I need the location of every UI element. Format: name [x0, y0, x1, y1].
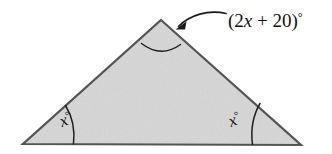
apex-angle-label-text: (2x + 20)°	[228, 10, 303, 32]
apex-label-middle: + 20)	[252, 10, 298, 32]
geometry-figure-container: (2x + 20)° x° x°	[0, 0, 332, 154]
arrow-head-icon	[176, 22, 187, 30]
apex-label-open: (2	[228, 10, 244, 32]
apex-angle-label: (2x + 20)°	[228, 10, 303, 32]
apex-label-degree: °	[298, 10, 303, 24]
triangle-diagram-svg: (2x + 20)° x° x°	[0, 0, 332, 154]
